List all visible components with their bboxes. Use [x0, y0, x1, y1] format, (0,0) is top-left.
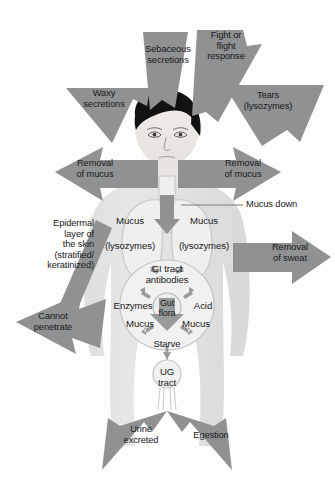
immune-defence-diagram: Sebaceous secretions Fight or flight res… [0, 0, 335, 479]
arrow-tears-lysozymes [224, 85, 324, 146]
ug-tract-circle [153, 360, 181, 388]
diagram-canvas [0, 0, 335, 479]
